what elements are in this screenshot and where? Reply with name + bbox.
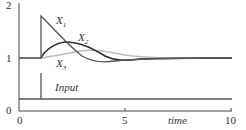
response-chart: 2 1 0 0 5 10 time Input X1 X2 X3 — [0, 0, 246, 130]
input-label: Input — [54, 81, 79, 93]
x1-label: X1 — [55, 14, 66, 29]
y-tick-label-0: 0 — [6, 104, 12, 116]
x-tick-label-5: 5 — [122, 114, 128, 126]
x-tick-label-10: 10 — [225, 114, 237, 126]
y-tick-label-1: 1 — [6, 52, 12, 64]
x3-series — [19, 50, 232, 58]
x-axis-label: time — [168, 114, 187, 126]
y-tick-label-2: 2 — [6, 0, 12, 11]
input-series — [19, 73, 232, 99]
x3-label: X3 — [55, 57, 67, 72]
x-tick-label-0: 0 — [17, 114, 23, 126]
